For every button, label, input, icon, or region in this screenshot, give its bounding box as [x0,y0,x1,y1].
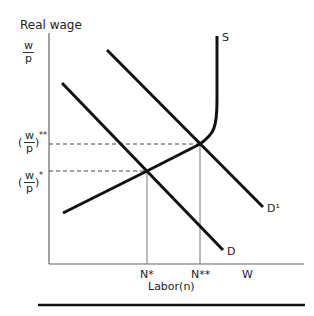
x-tick-w: W [242,268,253,281]
labor-market-diagram [0,0,314,316]
demand-label: D [227,245,235,258]
demand-shifted-label: D¹ [267,202,280,215]
fraction-denominator: p [23,53,34,65]
superscript: ** [39,131,47,140]
y-axis-unit: w p [23,40,34,65]
x-axis-title: Labor(n) [148,280,195,293]
y-axis-title: Real wage [20,18,82,32]
demand-shifted-curve [107,50,263,207]
fraction-denominator: p [24,143,35,155]
supply-curve [63,36,217,213]
demand-curve [62,83,223,250]
paren-open: ( [18,176,22,189]
supply-label: S [222,31,229,44]
superscript: * [39,171,43,180]
fraction-denominator: p [24,183,35,195]
paren-open: ( [18,136,22,149]
